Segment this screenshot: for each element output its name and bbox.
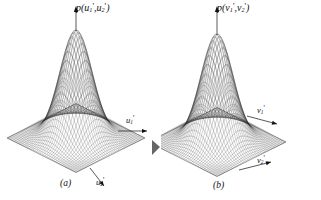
figure-root: p(u1',u2') u1' u2' (a) p(v1',v2') v1' v2… — [0, 0, 321, 200]
u2-axis-label: u2' — [96, 178, 104, 187]
panel-a: p(u1',u2') u1' u2' (a) — [0, 0, 160, 200]
v1-axis-label: v1' — [257, 106, 265, 115]
u1-axis-label: u1' — [126, 116, 134, 125]
v2-axis-label: v2' — [257, 156, 265, 165]
z-axis-label-b: p(v1',v2') — [217, 2, 249, 14]
surface-plot-b — [161, 0, 321, 200]
surface-plot-a — [0, 0, 160, 200]
panel-b: p(v1',v2') v1' v2' (b) — [161, 0, 321, 200]
z-axis-label-a: p(u1',u2') — [76, 2, 109, 14]
panel-caption-b: (b) — [213, 181, 224, 191]
panel-caption-a: (a) — [60, 179, 71, 189]
